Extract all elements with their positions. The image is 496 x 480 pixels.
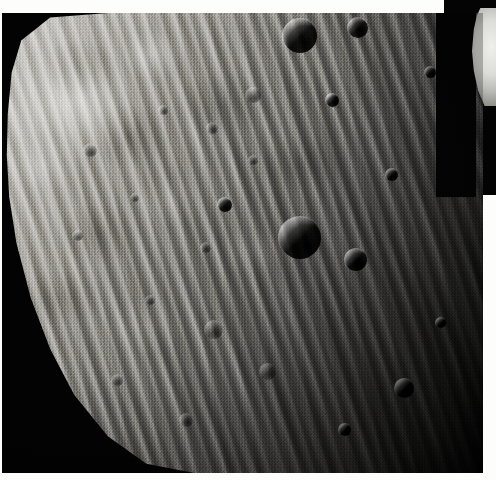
crater-rim <box>278 216 322 260</box>
crater-rim <box>282 18 318 54</box>
image-canvas <box>0 0 496 480</box>
crater <box>246 88 261 103</box>
crater <box>205 321 223 339</box>
crater <box>146 296 155 305</box>
crater <box>339 424 351 436</box>
crater-rim <box>394 378 415 399</box>
crater <box>283 19 317 53</box>
crater-rim <box>325 93 340 108</box>
crater <box>201 243 211 253</box>
crater-rim <box>83 143 98 158</box>
crater <box>84 144 97 157</box>
terminator-shadow-wedge <box>436 13 476 197</box>
crater <box>436 318 446 328</box>
crater <box>159 106 168 115</box>
crater <box>207 123 218 134</box>
crater-rim <box>424 66 437 79</box>
frame-band-top <box>0 0 444 13</box>
crater-rim <box>245 87 262 104</box>
crater <box>348 18 368 38</box>
crater-rim <box>111 374 124 387</box>
crater-rim <box>435 317 447 329</box>
crater <box>131 194 139 202</box>
crater <box>345 249 367 271</box>
crater <box>249 156 258 165</box>
image-grain-noise <box>2 13 483 473</box>
moon-surface <box>2 13 483 473</box>
crater-rim <box>72 230 84 242</box>
crater <box>395 379 414 398</box>
crater <box>260 364 276 380</box>
crater-rim <box>130 193 140 203</box>
crater-rim <box>385 168 399 182</box>
frame-band-right <box>483 195 496 473</box>
crater-rim <box>338 423 352 437</box>
crater <box>218 198 232 212</box>
crater-rim <box>200 242 212 254</box>
crater-rim <box>248 155 259 166</box>
crater-rim <box>206 122 219 135</box>
crater <box>112 375 123 386</box>
crater <box>425 67 436 78</box>
crater <box>279 217 321 259</box>
frame-band-bottom <box>0 473 496 480</box>
frame-band-left <box>0 0 2 480</box>
crater-rim <box>179 413 194 428</box>
crater-rim <box>145 295 156 306</box>
crater-rim <box>259 363 277 381</box>
crater-rim <box>347 17 369 39</box>
crater-rim <box>344 248 368 272</box>
crater <box>386 169 398 181</box>
crater-rim <box>158 105 169 116</box>
crater-rim <box>217 197 233 213</box>
moon-body-container <box>0 0 496 480</box>
crater-rim <box>204 320 224 340</box>
crater <box>326 94 339 107</box>
crater <box>73 231 83 241</box>
crater <box>180 414 193 427</box>
